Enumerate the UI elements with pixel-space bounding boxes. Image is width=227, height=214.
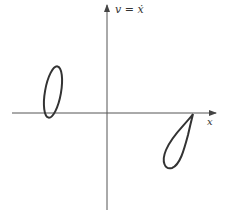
x-axis-label: x	[207, 116, 213, 127]
v-axis-label: v = ẋ	[115, 3, 144, 16]
closed-orbit-curve	[41, 65, 66, 119]
phase-plane-diagram	[0, 0, 227, 214]
teardrop-loop-curve	[164, 114, 193, 168]
